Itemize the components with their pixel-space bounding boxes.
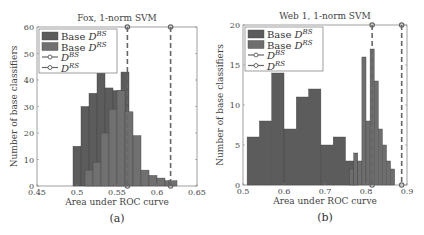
legend-swatch-icon [248, 41, 264, 49]
chart-fox-svg: Fox, 1-norm SVM01020304050600.450.50.550… [0, 0, 212, 235]
legend: Base DBSBase DRSDBSDRS [245, 27, 323, 72]
chart-title: Web 1, 1-norm SVM [279, 11, 370, 21]
histogram-bar [73, 146, 81, 186]
x-tick-label: 0.45 [28, 188, 46, 197]
histogram-bar [321, 145, 333, 185]
y-tick-label: 50 [24, 50, 34, 59]
histogram-bar [141, 170, 149, 186]
legend-swatch-icon [248, 30, 264, 38]
legend: Base DBSBase DRSDBSDRS [39, 29, 117, 74]
x-tick-label: 0.5 [237, 187, 250, 196]
histogram-bar [85, 170, 93, 186]
y-tick-label: 40 [24, 76, 34, 85]
x-tick-label: 0.8 [360, 187, 373, 196]
x-tick-label: 0.5 [71, 188, 84, 197]
histogram-bar [378, 129, 382, 185]
y-tick-label: 10 [230, 101, 240, 110]
histogram-bar [247, 137, 259, 185]
x-tick-label: 0.55 [108, 188, 126, 197]
x-axis-label: Area under ROC curve [64, 197, 169, 207]
chart-web1: Web 1, 1-norm SVM051015200.50.60.70.80.9… [212, 0, 424, 235]
histogram-bar [133, 136, 141, 186]
legend-swatch-icon [42, 32, 58, 40]
y-tick-label: 20 [230, 21, 240, 30]
histogram-bar [149, 175, 157, 186]
y-tick-label: 5 [235, 141, 240, 150]
histogram-bar [309, 89, 321, 185]
histogram-bar [391, 169, 395, 185]
histogram-bar [333, 137, 345, 185]
histogram-bar [366, 121, 370, 185]
y-tick-label: 20 [24, 129, 34, 138]
subfigure-label: (a) [109, 212, 124, 225]
legend-swatch-icon [42, 43, 58, 51]
histogram-bar [362, 57, 366, 185]
y-tick-label: 10 [24, 156, 34, 165]
histogram-bar [387, 161, 391, 185]
histogram-bar [259, 121, 271, 185]
chart-fox: Fox, 1-norm SVM01020304050600.450.50.550… [0, 0, 212, 235]
chart-web1-svg: Web 1, 1-norm SVM051015200.50.60.70.80.9… [212, 0, 424, 235]
histogram-bar [354, 153, 358, 185]
histogram-bar [109, 109, 117, 186]
x-tick-label: 0.9 [401, 187, 414, 196]
subfigure-label: (b) [317, 211, 333, 224]
histogram-bar [93, 162, 101, 186]
histogram-bar [374, 81, 378, 185]
y-axis-label: Number of base classifiers [9, 45, 19, 167]
y-tick-label: 60 [24, 23, 34, 32]
histogram-bar [382, 145, 386, 185]
y-tick-label: 15 [230, 61, 240, 70]
histogram-bar [101, 133, 109, 186]
x-tick-label: 0.65 [188, 188, 206, 197]
histogram-bar [296, 97, 308, 185]
histogram-bar [117, 91, 125, 186]
x-tick-label: 0.6 [151, 188, 164, 197]
histogram-bar [284, 129, 296, 185]
y-axis-label: Number of base classifiers [215, 44, 225, 166]
histogram-bar [125, 112, 133, 186]
x-tick-label: 0.6 [278, 187, 291, 196]
histogram-bar [157, 178, 165, 186]
histogram-bar [350, 169, 354, 185]
x-axis-label: Area under ROC curve [272, 196, 377, 206]
x-tick-label: 0.7 [319, 187, 332, 196]
histogram-bar [272, 73, 284, 185]
histogram-bar [358, 161, 362, 185]
y-tick-label: 30 [24, 103, 34, 112]
chart-title: Fox, 1-norm SVM [77, 13, 157, 23]
